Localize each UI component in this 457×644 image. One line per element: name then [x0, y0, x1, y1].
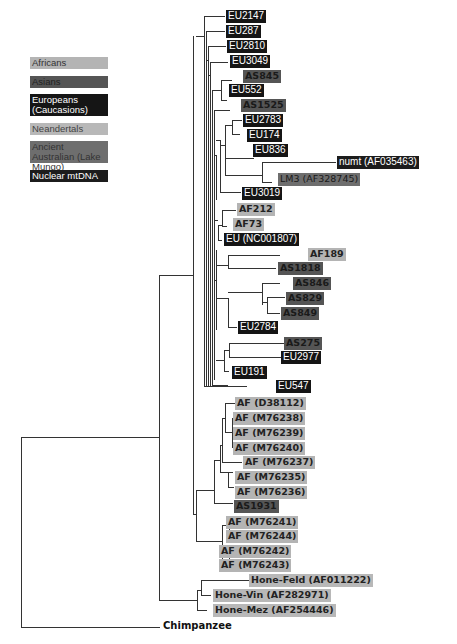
- leaf-af-m76235: AF (M76235): [235, 471, 307, 484]
- leaf-af73: AF73: [233, 218, 264, 231]
- leaf-hone-vin: Hone-Vin (AF282971): [213, 589, 331, 602]
- leaf-as275: AS275: [284, 337, 322, 350]
- leaf-af-m76240: AF (M76240): [233, 442, 305, 455]
- leaf-eu2784: EU2784: [238, 321, 278, 334]
- leaf-as845: AS845: [243, 70, 281, 83]
- leaf-eu2810: EU2810: [227, 40, 267, 53]
- leaf-af-m76244: AF (M76244): [226, 530, 298, 543]
- leaf-as849: AS849: [281, 307, 319, 320]
- leaf-as1818: AS1818: [278, 262, 323, 275]
- leaf-eu2147: EU2147: [226, 10, 266, 23]
- leaf-eu287: EU287: [226, 25, 261, 38]
- leaf-af-m76243: AF (M76243): [219, 559, 291, 572]
- leaf-as1525: AS1525: [241, 99, 286, 112]
- leaf-eu-nc001807: EU (NC001807): [224, 233, 299, 246]
- leaf-as1931: AS1931: [234, 500, 279, 513]
- leaf-eu174: EU174: [247, 129, 282, 142]
- leaf-af189: AF189: [308, 248, 346, 261]
- leaf-eu3019: EU3019: [242, 187, 282, 200]
- leaf-af-m76241: AF (M76241): [226, 516, 298, 529]
- leaf-eu2783: EU2783: [243, 114, 283, 127]
- leaf-af-m76242: AF (M76242): [219, 545, 291, 558]
- leaf-af-m76238: AF (M76238): [233, 412, 305, 425]
- leaf-eu2977: EU2977: [281, 351, 321, 364]
- leaf-hone-feld: Hone-Feld (AF011222): [249, 574, 373, 587]
- leaf-as829: AS829: [286, 292, 324, 305]
- leaf-numt: numt (AF035463): [337, 156, 419, 169]
- leaf-as846: AS846: [293, 277, 331, 290]
- leaf-af212: AF212: [237, 203, 275, 216]
- leaf-eu3049: EU3049: [230, 55, 270, 68]
- leaf-af-m76236: AF (M76236): [235, 486, 307, 499]
- leaf-hone-mez: Hone-Mez (AF254446): [213, 604, 336, 617]
- leaf-af-m76239: AF (M76239): [233, 427, 305, 440]
- leaf-af-d38112: AF (D38112): [235, 397, 306, 410]
- leaf-chimpanzee: Chimpanzee: [163, 620, 232, 631]
- leaf-lm3: LM3 (AF328745): [278, 173, 360, 186]
- leaf-eu836: EU836: [253, 144, 288, 157]
- leaf-af-m76237: AF (M76237): [243, 456, 315, 469]
- leaf-eu191: EU191: [232, 366, 267, 379]
- leaf-eu547: EU547: [276, 380, 311, 393]
- leaf-eu552: EU552: [229, 84, 264, 97]
